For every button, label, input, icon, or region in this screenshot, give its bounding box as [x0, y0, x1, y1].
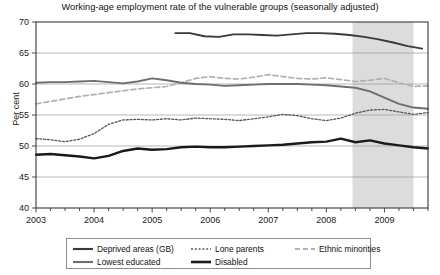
y-tick-label: 40	[19, 203, 29, 213]
x-tick-label: 2003	[26, 215, 46, 225]
x-tick-label: 2005	[142, 215, 162, 225]
x-tick-label: 2004	[84, 215, 104, 225]
legend-label: Disabled	[215, 257, 248, 267]
legend-item: Ethnic minorities	[295, 242, 380, 255]
y-tick-label: 45	[19, 172, 29, 182]
legend-item: Disabled	[191, 255, 248, 268]
x-tick-labels: 2003200420052006200720082009	[26, 215, 394, 225]
legend-label: Lone parents	[215, 244, 264, 254]
chart-figure: Working-age employment rate of the vulne…	[0, 0, 440, 275]
legend-label: Lowest educated	[97, 257, 160, 267]
legend-item: Lone parents	[191, 242, 264, 255]
x-tick-label: 2008	[316, 215, 336, 225]
legend-swatch	[73, 244, 93, 254]
x-tick-label: 2007	[258, 215, 278, 225]
legend-swatch	[191, 244, 211, 254]
y-tick-label: 70	[19, 17, 29, 27]
legend-item: Lowest educated	[73, 255, 160, 268]
y-tick-label: 50	[19, 141, 29, 151]
x-tick-label: 2009	[374, 215, 394, 225]
chart-legend: Deprived areas (GB)Lone parentsEthnic mi…	[66, 238, 371, 269]
legend-item: Deprived areas (GB)	[73, 242, 174, 255]
legend-swatch	[295, 244, 315, 254]
x-tick-label: 2006	[200, 215, 220, 225]
plot-area: 40455055606570 2003200420052006200720082…	[0, 0, 440, 275]
y-tick-label: 60	[19, 79, 29, 89]
y-tick-labels: 40455055606570	[19, 17, 29, 213]
y-tick-label: 55	[19, 110, 29, 120]
legend-swatch	[191, 257, 211, 267]
legend-swatch	[73, 257, 93, 267]
legend-label: Deprived areas (GB)	[97, 244, 174, 254]
y-tick-label: 65	[19, 48, 29, 58]
legend-label: Ethnic minorities	[319, 244, 380, 254]
